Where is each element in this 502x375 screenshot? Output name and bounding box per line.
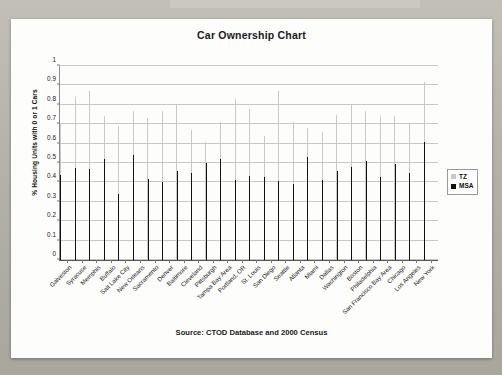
y-tick-label: 0.8 xyxy=(47,94,56,101)
y-tick-label: 0.3 xyxy=(47,191,56,198)
x-tick-mark xyxy=(184,260,185,263)
bar-group[interactable] xyxy=(394,66,409,260)
y-tick-label: 0 xyxy=(52,250,56,257)
legend-swatch xyxy=(451,184,456,189)
x-tick-mark xyxy=(344,260,345,263)
bar-group[interactable] xyxy=(60,66,75,260)
legend-item-msa[interactable]: MSA xyxy=(451,181,473,190)
bar-group[interactable] xyxy=(75,66,90,260)
bar-group[interactable] xyxy=(205,66,220,260)
y-tick-label: 0.1 xyxy=(47,230,56,237)
bars-layer xyxy=(60,66,438,260)
x-tick-mark xyxy=(314,260,315,263)
bar-group[interactable] xyxy=(409,66,424,260)
y-tick-label: 0.7 xyxy=(47,114,56,121)
bar-group[interactable] xyxy=(104,66,119,260)
slide-top-band xyxy=(170,0,420,8)
chart-plot-wrapper: % Housing Units with 0 or 1 Cars 00.10.2… xyxy=(11,19,492,358)
y-tick-label: 0.4 xyxy=(47,172,56,179)
bar-group[interactable] xyxy=(336,66,351,260)
slide-canvas: Car Ownership Chart % Housing Units with… xyxy=(11,19,492,358)
bar-group[interactable] xyxy=(322,66,337,260)
x-tick-mark xyxy=(155,260,156,263)
x-tick-mark xyxy=(125,260,126,263)
bar-group[interactable] xyxy=(278,66,293,260)
y-tick-label: 0.9 xyxy=(47,75,56,82)
plot-area: 00.10.20.30.40.50.60.70.80.91 GalvestonS… xyxy=(59,66,438,261)
y-tick-label: 1 xyxy=(52,56,56,63)
x-tick-mark xyxy=(431,260,432,263)
legend-label: TZ xyxy=(459,172,467,181)
bar-group[interactable] xyxy=(234,66,249,260)
x-tick-mark xyxy=(213,260,214,263)
bar-group[interactable] xyxy=(293,66,308,260)
bar-group[interactable] xyxy=(307,66,322,260)
legend-swatch xyxy=(451,174,456,179)
source-note: Source: CTOD Database and 2000 Census xyxy=(11,328,492,337)
y-tick-label: 0.6 xyxy=(47,133,56,140)
bar-group[interactable] xyxy=(89,66,104,260)
chart-legend: TZMSA xyxy=(447,169,478,195)
bar-group[interactable] xyxy=(118,66,133,260)
legend-label: MSA xyxy=(459,181,473,190)
bar-group[interactable] xyxy=(249,66,264,260)
y-axis-title: % Housing Units with 0 or 1 Cars xyxy=(31,68,38,218)
bar-group[interactable] xyxy=(176,66,191,260)
bar-group[interactable] xyxy=(351,66,366,260)
bar-group[interactable] xyxy=(191,66,206,260)
y-tick-label: 0.5 xyxy=(47,153,56,160)
bar-group[interactable] xyxy=(220,66,235,260)
bar-group[interactable] xyxy=(264,66,279,260)
bar-group[interactable] xyxy=(365,66,380,260)
bar-group[interactable] xyxy=(147,66,162,260)
y-tick-label: 0.2 xyxy=(47,211,56,218)
bar-group[interactable] xyxy=(380,66,395,260)
bar-group[interactable] xyxy=(162,66,177,260)
legend-item-tz[interactable]: TZ xyxy=(451,172,473,181)
bar-group[interactable] xyxy=(423,66,438,260)
bar-group[interactable] xyxy=(133,66,148,260)
